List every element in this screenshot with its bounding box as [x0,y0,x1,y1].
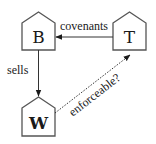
node-t: T [113,12,146,50]
edge-covenants: covenants [56,19,113,37]
node-w: W [22,97,55,136]
sells-label: sells [7,63,29,77]
edge-sells: sells [7,50,39,96]
node-t-label: T [124,27,136,47]
diagram-canvas: B T W covenants sells enforceable? [0,0,156,144]
node-w-label: W [28,113,49,133]
enforceable-label: enforceable? [66,71,123,120]
node-b-label: B [32,27,45,47]
covenants-label: covenants [60,19,108,33]
node-b: B [22,12,55,50]
edge-enforceable: enforceable? [55,55,130,119]
